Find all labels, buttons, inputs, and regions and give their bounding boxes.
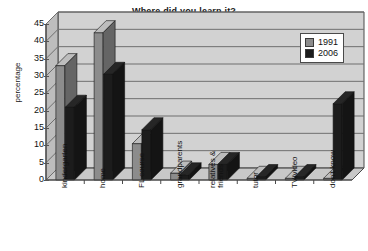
legend-label: 2006 [318, 48, 338, 58]
legend-item[interactable]: 2006 [305, 48, 338, 58]
legend-item[interactable]: 1991 [305, 37, 338, 47]
x-tick-label: don't know [329, 150, 337, 188]
chart-container: Where did you learn it? percentage 45403… [0, 0, 368, 251]
x-tick-label: kindergarten [61, 144, 69, 188]
x-tick-label: relatives &friends [209, 151, 225, 188]
x-tick-label: tutor [252, 172, 260, 188]
x-tick-label: grandparents [176, 141, 184, 188]
legend-swatch-icon [305, 38, 314, 47]
x-tick-label: FL course [138, 153, 146, 188]
chart-legend: 19912006 [300, 33, 344, 63]
legend-label: 1991 [318, 37, 338, 47]
x-tick-label: TV/video [291, 156, 299, 188]
legend-swatch-icon [305, 49, 314, 58]
x-tick-label: home [99, 168, 107, 188]
